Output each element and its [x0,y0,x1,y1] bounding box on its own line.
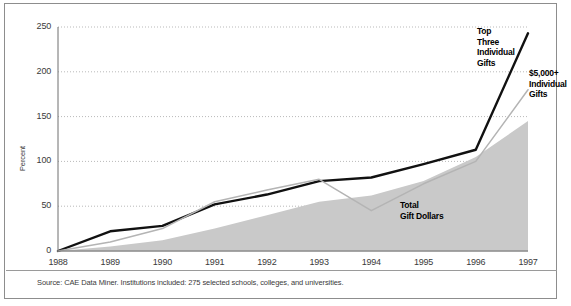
area-series-group [58,121,528,251]
x-axis-tick-label: 1988 [35,257,81,267]
y-axis-tick-label: 150 [25,111,51,121]
y-axis-tick-label: 100 [25,155,51,165]
chart-plot-area: Percent 250200150100500 1988198919901991… [5,4,558,300]
x-axis-tick-label: 1995 [401,257,447,267]
y-axis-tick-label: 250 [25,21,51,31]
annotation-top-three-line2: Three [477,37,537,48]
x-axis-tick-label: 1989 [87,257,133,267]
source-note: Source: CAE Data Miner. Institutions inc… [37,278,343,287]
x-axis-tick-label: 1996 [453,257,499,267]
annotation-total-line1: Total [400,200,460,211]
x-axis-tick-label: 1990 [139,257,185,267]
annotation-total-gift-dollars: Total Gift Dollars [400,200,460,221]
annotation-top-three-line4: Gifts [477,58,537,69]
area-series [58,121,528,251]
chart-frame: Percent 250200150100500 1988198919901991… [4,3,557,299]
x-axis-tick-label: 1993 [296,257,342,267]
x-axis-tick-label: 1994 [348,257,394,267]
annotation-five-thousand-line1: $5,000+ [529,68,571,79]
y-axis-tick-label: 200 [25,66,51,76]
annotation-top-three-line3: Individual [477,47,537,58]
x-axis-tick-label: 1991 [192,257,238,267]
annotation-top-three: Top Three Individual Gifts [477,26,537,68]
annotation-top-three-line1: Top [477,26,537,37]
chart-svg [5,4,558,300]
annotation-five-thousand-line3: Gifts [529,89,571,100]
annotation-total-line2: Gift Dollars [400,211,460,222]
footer-divider [6,270,557,271]
x-axis-tick-label: 1992 [244,257,290,267]
x-axis-tick-label: 1997 [505,257,551,267]
y-axis-tick-label: 50 [25,200,51,210]
annotation-five-thousand-line2: Individual [529,79,571,90]
y-axis-tick-label: 0 [25,245,51,255]
annotation-five-thousand: $5,000+ Individual Gifts [529,68,571,100]
